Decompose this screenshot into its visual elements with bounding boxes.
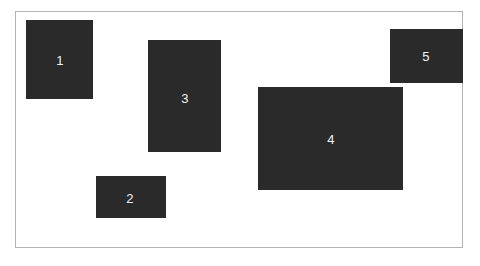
diagram-canvas: 1 2 3 4 5 [0,0,480,266]
region-label-3: 3 [181,92,188,105]
region-label-5: 5 [422,50,429,63]
region-label-2: 2 [126,192,133,205]
region-label-1: 1 [56,54,63,67]
region-label-4: 4 [327,133,334,146]
